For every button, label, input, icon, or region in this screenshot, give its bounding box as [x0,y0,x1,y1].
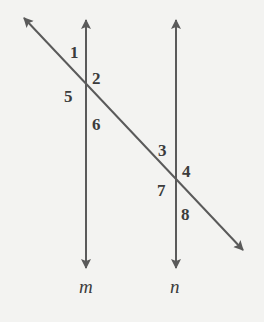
line-m-label: m [79,277,93,296]
diagram-canvas [0,0,264,322]
angle-5-label: 5 [64,88,73,105]
line-n-label: n [170,277,180,296]
angle-4-label: 4 [182,163,191,180]
angle-7-label: 7 [157,182,166,199]
angle-2-label: 2 [92,70,101,87]
angle-8-label: 8 [181,206,190,223]
transversal-line [24,18,243,250]
angle-1-label: 1 [70,44,79,61]
angle-3-label: 3 [158,142,167,159]
angle-6-label: 6 [92,116,101,133]
